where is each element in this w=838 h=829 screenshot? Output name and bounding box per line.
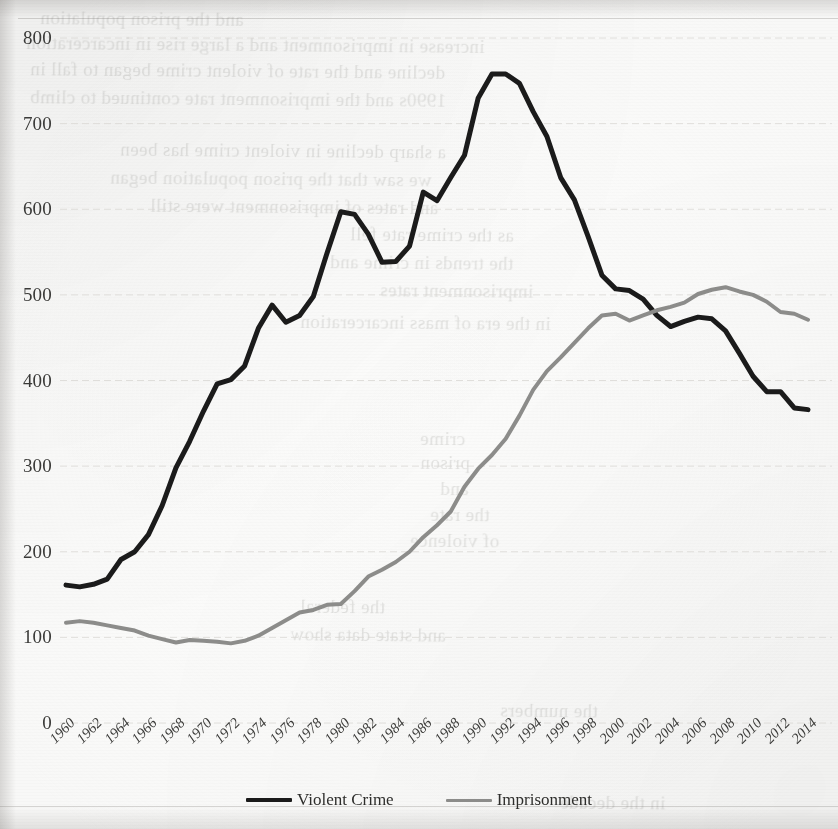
- chart-plot-svg: [0, 0, 838, 829]
- y-axis-tick-label: 400: [6, 370, 52, 392]
- legend-swatch-icon: [246, 798, 292, 802]
- legend-swatch-icon: [446, 799, 492, 802]
- y-axis-tick-label: 200: [6, 541, 52, 563]
- legend-item-violent-crime[interactable]: Violent Crime: [246, 790, 394, 810]
- chart-legend: Violent CrimeImprisonment: [0, 790, 838, 810]
- y-axis-tick-label: 300: [6, 455, 52, 477]
- y-axis-tick-label: 500: [6, 284, 52, 306]
- legend-label: Imprisonment: [497, 790, 592, 810]
- y-axis-tick-label: 100: [6, 626, 52, 648]
- chart-series-layer: [66, 74, 808, 643]
- chart-gridlines: [60, 38, 832, 723]
- legend-item-imprisonment[interactable]: Imprisonment: [446, 790, 592, 810]
- series-line-violent-crime: [66, 74, 808, 587]
- y-axis-tick-label: 800: [6, 27, 52, 49]
- line-chart: 0100200300400500600700800 19601962196419…: [0, 0, 838, 829]
- legend-label: Violent Crime: [297, 790, 394, 810]
- y-axis-tick-label: 600: [6, 198, 52, 220]
- y-axis-tick-label: 700: [6, 113, 52, 135]
- y-axis-tick-label: 0: [6, 712, 52, 734]
